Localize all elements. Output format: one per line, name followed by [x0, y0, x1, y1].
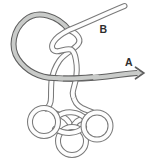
knot-diagram: A B — [0, 0, 149, 165]
label-b: B — [100, 23, 108, 35]
knot-left-loop — [30, 108, 58, 136]
rope-shaded-band-over-patch — [59, 77, 98, 79]
label-a: A — [125, 56, 133, 68]
knot-diagram-canvas: A B — [0, 0, 149, 165]
rope-b-strand — [52, 6, 124, 97]
knot-right-loop — [84, 113, 111, 140]
